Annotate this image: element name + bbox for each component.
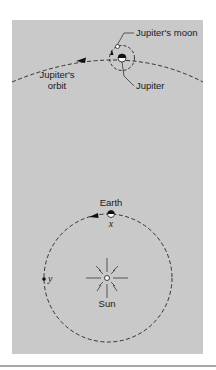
jupiter-label: Jupiter xyxy=(136,80,165,91)
earth-body xyxy=(108,211,115,218)
jupiters-orbit-label-line2: orbit xyxy=(48,80,67,91)
earth-label: Earth xyxy=(100,197,123,208)
jupiters-moon-body xyxy=(116,45,120,49)
point-y-label: y xyxy=(47,273,53,284)
orbit-diagram: Jupiter's moon Jupiter Jupiter's orbit E… xyxy=(0,0,216,370)
point-x-label: x xyxy=(108,218,114,229)
jupiter-body xyxy=(118,54,126,62)
jupiters-moon-label: Jupiter's moon xyxy=(136,27,197,38)
sun-body xyxy=(105,276,110,281)
point-y-marker xyxy=(42,277,46,281)
sun-label: Sun xyxy=(99,298,116,309)
jupiters-orbit-label-line1: Jupiter's xyxy=(39,69,74,80)
